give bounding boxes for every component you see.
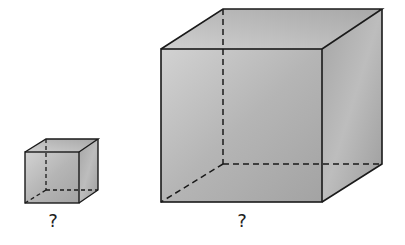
large-cube-front-face xyxy=(161,49,322,202)
small-cube xyxy=(25,139,98,203)
small-cube-label: ? xyxy=(48,212,58,230)
large-cube xyxy=(161,9,382,202)
large-cube-label: ? xyxy=(237,212,247,230)
cube-diagram xyxy=(0,0,405,245)
small-cube-front-face xyxy=(25,152,79,203)
